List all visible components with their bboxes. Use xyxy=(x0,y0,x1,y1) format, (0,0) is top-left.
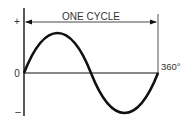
degree-label: 360° xyxy=(161,61,181,72)
negative-label: – xyxy=(15,106,21,117)
zero-label: 0 xyxy=(14,68,20,79)
positive-label: + xyxy=(14,16,20,27)
arrow-right-icon xyxy=(150,20,157,25)
sine-wave-diagram: ONE CYCLE + 0 – 360° xyxy=(0,0,187,123)
arrow-left-icon xyxy=(25,20,32,25)
cycle-label: ONE CYCLE xyxy=(62,11,120,22)
